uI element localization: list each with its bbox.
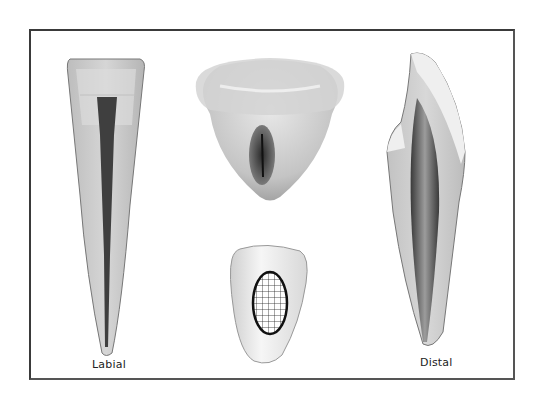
- label-labial: Labial: [92, 358, 126, 371]
- cervical-cross-section-illustration: [226, 243, 316, 368]
- labial-section-illustration: [62, 55, 152, 360]
- distal-section-illustration: [383, 52, 468, 352]
- label-distal: Distal: [420, 356, 453, 369]
- incisal-cross-section-illustration: [190, 52, 350, 207]
